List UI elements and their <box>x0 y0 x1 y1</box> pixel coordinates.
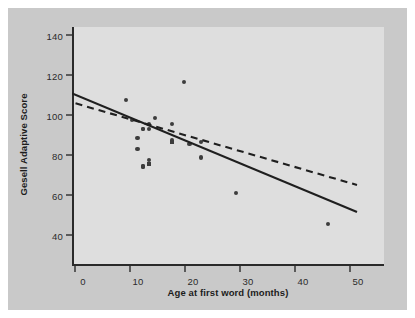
x-axis-ticks <box>75 266 350 272</box>
figure-container: 140 120 100 80 60 40 0 10 20 30 40 50 Ag… <box>0 0 415 318</box>
regression-line-dashed <box>64 100 357 185</box>
regression-line-solid <box>64 90 357 212</box>
chart-overlay <box>0 0 415 318</box>
y-axis-ticks <box>66 35 72 235</box>
